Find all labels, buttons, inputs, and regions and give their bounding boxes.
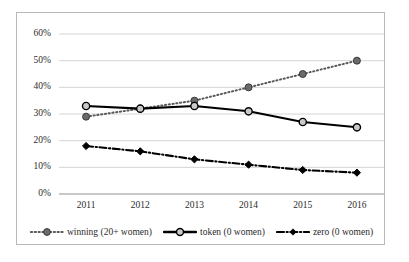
data-point bbox=[191, 102, 198, 109]
x-tick-label: 2011 bbox=[66, 200, 106, 210]
series-line-2 bbox=[86, 146, 357, 173]
legend-marker-icon bbox=[30, 226, 64, 238]
data-point bbox=[353, 169, 360, 176]
y-tick-label: 0% bbox=[21, 188, 51, 198]
legend-item[interactable]: winning (20+ women) bbox=[30, 226, 152, 238]
y-tick-label: 20% bbox=[21, 135, 51, 145]
data-point bbox=[83, 113, 90, 120]
data-point bbox=[245, 108, 252, 115]
y-tick-label: 60% bbox=[21, 28, 51, 38]
data-point bbox=[353, 57, 360, 64]
x-tick-label: 2016 bbox=[337, 200, 377, 210]
chart-figure: 60%50%40%30%20%10%0% 2011201220132014201… bbox=[16, 12, 385, 245]
y-tick-label: 30% bbox=[21, 108, 51, 118]
line-chart-canvas bbox=[17, 13, 386, 246]
x-tick-label: 2015 bbox=[283, 200, 323, 210]
chart-legend: winning (20+ women)token (0 women)zero (… bbox=[17, 226, 386, 238]
legend-label: zero (0 women) bbox=[313, 227, 373, 237]
data-point bbox=[82, 142, 89, 149]
y-tick-label: 50% bbox=[21, 55, 51, 65]
series-markers-group bbox=[82, 57, 360, 176]
series-line-1 bbox=[86, 106, 357, 127]
data-point bbox=[299, 71, 306, 78]
x-tick-label: 2012 bbox=[120, 200, 160, 210]
data-point bbox=[137, 148, 144, 155]
y-tick-label: 40% bbox=[21, 81, 51, 91]
x-tick-label: 2013 bbox=[174, 200, 214, 210]
x-tick-label: 2014 bbox=[229, 200, 269, 210]
y-tick-label: 10% bbox=[21, 161, 51, 171]
legend-item[interactable]: zero (0 women) bbox=[276, 226, 373, 238]
data-point bbox=[245, 84, 252, 91]
gridlines-group bbox=[59, 34, 384, 194]
plot-area: 60%50%40%30%20%10%0% 2011201220132014201… bbox=[17, 13, 386, 246]
data-point bbox=[191, 156, 198, 163]
data-point bbox=[353, 124, 360, 131]
legend-item[interactable]: token (0 women) bbox=[163, 226, 265, 238]
legend-marker-icon bbox=[276, 226, 310, 238]
legend-label: token (0 women) bbox=[200, 227, 265, 237]
legend-marker-icon bbox=[163, 226, 197, 238]
legend-label: winning (20+ women) bbox=[67, 227, 152, 237]
data-point bbox=[299, 118, 306, 125]
series-lines-group bbox=[86, 61, 357, 173]
data-point bbox=[137, 105, 144, 112]
data-point bbox=[82, 102, 89, 109]
